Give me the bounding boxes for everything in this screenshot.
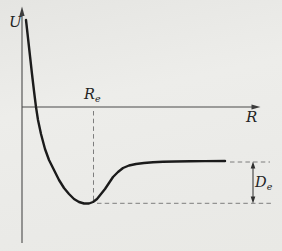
de-arrow-down-head-icon bbox=[251, 197, 256, 204]
dissociation-energy-label: De bbox=[254, 174, 273, 192]
potential-curve bbox=[26, 20, 225, 204]
de-arrow-up-head-icon bbox=[251, 162, 256, 169]
x-axis-label: R bbox=[245, 108, 257, 126]
y-axis-label: U bbox=[9, 13, 23, 31]
equilibrium-distance-label: Re bbox=[83, 86, 101, 104]
potential-energy-diagram: U R Re De bbox=[0, 0, 282, 251]
diagram-canvas: U R Re De bbox=[0, 0, 282, 251]
